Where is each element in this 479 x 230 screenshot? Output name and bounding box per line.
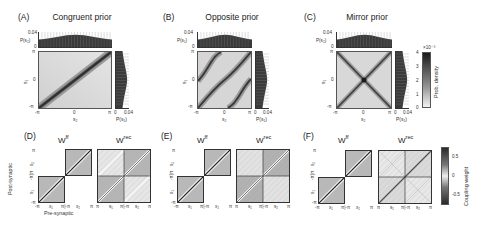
right-marginal-histogram: [115, 51, 129, 109]
y-tick: -π|π: [30, 171, 35, 180]
panel-d-letter: (D): [24, 131, 36, 141]
x-tick: -π: [315, 206, 320, 211]
x-tick: π|-π: [200, 205, 209, 210]
top-hist-label: P(s₂): [316, 39, 326, 44]
colorbar-tick: 0: [452, 174, 455, 179]
panel-b-letter: (B): [163, 12, 174, 22]
colorbar-tick: 0: [416, 106, 419, 111]
y-tick-pi: π: [191, 50, 194, 55]
x-tick: -π: [35, 205, 40, 210]
y-tick-neg-pi: -π: [29, 105, 34, 110]
wrec-title: Wrec: [116, 134, 131, 145]
x-axis-label: s₂: [222, 117, 226, 122]
x-tick: s₂: [416, 206, 420, 211]
right-hist-tick-0: 0: [394, 111, 397, 116]
panel-c-title: Mirror prior: [327, 12, 407, 22]
right-hist-tick-max: 0.04: [124, 111, 133, 116]
y-tick: s₂: [311, 162, 316, 166]
panel-b-title: Opposite prior: [192, 12, 272, 22]
x-tick: π: [148, 205, 151, 210]
wrec-title: Wrec: [256, 134, 271, 145]
x-tick: x₂: [76, 205, 80, 210]
x-tick: -π: [174, 205, 179, 210]
y-tick: s₁: [311, 190, 316, 194]
right-hist-label: P(s₁): [396, 117, 407, 122]
panel-e-letter: (E): [161, 131, 172, 141]
panel-c-letter: (C): [304, 12, 316, 22]
y-tick-0: 0: [33, 78, 36, 83]
x-tick: x₁: [188, 205, 192, 210]
y-tick: s₂: [30, 162, 35, 166]
wrec-title: Wrec: [398, 134, 413, 145]
x-tick: π: [287, 205, 290, 210]
x-tick: π: [229, 205, 232, 210]
right-hist-tick-0: 0: [254, 111, 257, 116]
wrec-matrix: [97, 149, 151, 203]
x-tick-neg-pi: -π: [35, 111, 40, 116]
colorbar-label: Prob. density: [434, 66, 440, 98]
wff-title: Wff: [197, 134, 208, 145]
colorbar-tick: 4: [416, 51, 419, 56]
top-hist-label: P(s₂): [20, 39, 30, 44]
hist-ymax: 0.04: [323, 31, 332, 36]
wff-block-s1: [38, 176, 65, 203]
y-tick-0: 0: [331, 78, 334, 83]
colorbar-exponent: ×10⁻³: [423, 46, 435, 51]
y-tick-neg-pi: -π: [327, 105, 332, 110]
x-axis-label: s₂: [361, 117, 365, 122]
colorbar-tick: 3: [416, 65, 419, 70]
x-tick: π: [96, 205, 99, 210]
right-hist-label: P(s₁): [116, 117, 127, 122]
colorbar-gradient: [441, 147, 449, 205]
y-tick: s₂: [170, 162, 175, 166]
y-axis-label-post-synaptic: Post-synaptic: [8, 163, 13, 195]
y-tick-neg-pi: -π: [188, 105, 193, 110]
x-tick: π|-π: [120, 205, 129, 210]
y-axis-label: s₁: [23, 80, 28, 84]
x-axis-label: s₂: [73, 117, 77, 122]
hist-ymax: 0.04: [184, 31, 193, 36]
x-tick: x₁: [49, 205, 53, 210]
top-marginal-histogram: [38, 32, 112, 48]
wff-block-s2: [204, 149, 231, 176]
right-hist-tick-0: 0: [114, 111, 117, 116]
y-tick: -π|π: [311, 171, 316, 180]
wff-title: Wff: [338, 134, 349, 145]
x-tick-neg-pi: -π: [333, 111, 338, 116]
top-hist-label: P(s₁): [177, 39, 187, 44]
y-tick-pi: π: [32, 50, 35, 55]
panel-f-letter: (F): [303, 131, 314, 141]
right-hist-tick-max: 0.04: [403, 111, 412, 116]
wff-block-s2: [345, 150, 372, 177]
colorbar-tick: 1: [416, 93, 419, 98]
x-tick: s₁: [109, 205, 113, 210]
x-tick: π: [377, 206, 380, 211]
colorbar-gradient: [422, 52, 431, 108]
y-tick: s₁: [170, 190, 175, 194]
wff-block-s2: [65, 149, 92, 176]
x-tick: x₂: [356, 206, 360, 211]
heatmap-mirror: [336, 51, 392, 109]
y-tick: π: [32, 149, 35, 154]
x-tick-0: 0: [223, 111, 226, 116]
top-marginal-histogram: [336, 32, 392, 48]
x-tick-neg-pi: -π: [194, 111, 199, 116]
wff-block-s1: [318, 177, 345, 204]
x-tick: s₂: [135, 205, 139, 210]
y-tick: s₁: [30, 190, 35, 194]
x-tick: π|-π: [401, 206, 410, 211]
x-tick: π|-π: [259, 205, 268, 210]
y-tick: π: [172, 149, 175, 154]
x-tick: π: [235, 205, 238, 210]
heatmap-congruent: [38, 51, 112, 109]
y-tick: π: [313, 149, 316, 154]
right-marginal-histogram: [395, 51, 409, 109]
panel-a-title: Congruent prior: [42, 12, 122, 22]
x-tick: x₁: [329, 206, 333, 211]
x-tick-0: 0: [362, 111, 365, 116]
x-tick: π: [370, 206, 373, 211]
wff-block-s1: [177, 176, 204, 203]
x-tick-pi: π: [108, 111, 111, 116]
y-tick-pi: π: [330, 50, 333, 55]
hist-ymax: 0.04: [28, 31, 37, 36]
